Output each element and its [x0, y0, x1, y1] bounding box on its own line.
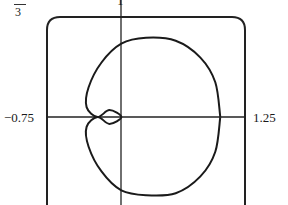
x-min-label: −0.75	[4, 111, 34, 124]
polar-plot	[0, 0, 288, 205]
x-max-label: 1.25	[253, 111, 276, 124]
fraction-denominator: 3	[15, 6, 21, 18]
window-frame	[47, 17, 245, 205]
y-max-label: 1	[117, 0, 124, 7]
